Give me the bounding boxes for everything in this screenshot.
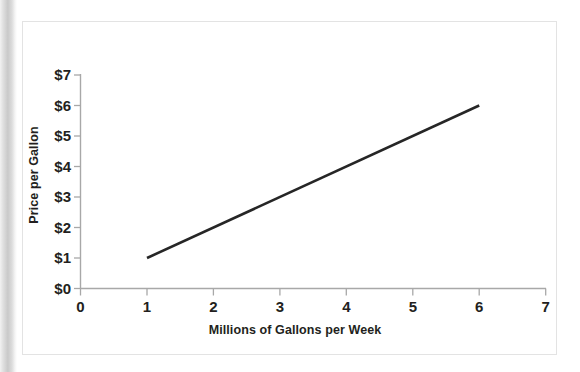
y-axis-ticks xyxy=(74,75,81,289)
x-axis-tick-labels: 0 1 2 3 4 5 6 7 xyxy=(76,298,550,315)
y-axis-title: Price per Gallon xyxy=(27,126,41,223)
x-tick-label-4: 4 xyxy=(342,298,351,315)
x-tick-label-1: 1 xyxy=(143,298,151,315)
y-tick-label-3: $3 xyxy=(54,188,71,205)
x-tick-label-2: 2 xyxy=(209,298,217,315)
x-tick-label-6: 6 xyxy=(475,298,483,315)
y-tick-label-4: $4 xyxy=(54,158,71,175)
y-tick-label-2: $2 xyxy=(54,219,71,236)
x-tick-label-5: 5 xyxy=(409,298,417,315)
y-tick-label-5: $5 xyxy=(54,127,71,144)
page-canvas: $0 $1 $2 $3 $4 $5 $6 $7 0 1 2 3 4 5 6 7 xyxy=(0,0,580,372)
x-axis-ticks xyxy=(81,289,546,296)
x-tick-label-7: 7 xyxy=(542,298,550,315)
chart-svg: $0 $1 $2 $3 $4 $5 $6 $7 0 1 2 3 4 5 6 7 xyxy=(0,0,580,372)
supply-curve-chart: $0 $1 $2 $3 $4 $5 $6 $7 0 1 2 3 4 5 6 7 xyxy=(0,0,580,372)
y-tick-label-6: $6 xyxy=(54,97,71,114)
x-axis-title: Millions of Gallons per Week xyxy=(209,323,382,337)
y-tick-label-0: $0 xyxy=(54,280,71,297)
supply-curve-line xyxy=(147,106,479,259)
x-tick-label-0: 0 xyxy=(76,298,84,315)
y-axis-tick-labels: $0 $1 $2 $3 $4 $5 $6 $7 xyxy=(54,66,71,297)
y-tick-label-7: $7 xyxy=(54,66,71,83)
y-tick-label-1: $1 xyxy=(54,249,71,266)
x-tick-label-3: 3 xyxy=(276,298,284,315)
